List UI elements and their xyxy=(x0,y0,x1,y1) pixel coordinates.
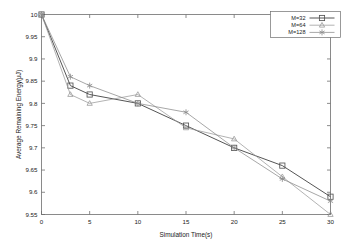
series-line xyxy=(42,15,331,202)
x-tick-label: 30 xyxy=(327,218,334,225)
legend-label-0: M=32 xyxy=(291,15,305,21)
data-point xyxy=(87,83,92,89)
legend-label-2: M=128 xyxy=(288,29,305,35)
y-tick-label: 9.75 xyxy=(25,122,38,129)
data-point xyxy=(68,74,73,80)
data-point xyxy=(232,145,237,151)
y-tick-label: 10 xyxy=(31,11,38,18)
legend-label-1: M=64 xyxy=(291,22,305,28)
series-group xyxy=(39,12,333,217)
chart-canvas: 9.559.69.659.79.759.89.859.99.9510051015… xyxy=(0,0,349,249)
chart-legend: M=32M=64M=128 xyxy=(271,12,341,38)
y-tick-label: 9.9 xyxy=(29,55,38,62)
y-tick-label: 9.55 xyxy=(25,211,38,218)
chart-figure: 9.559.69.659.79.759.89.859.99.9510051015… xyxy=(0,0,349,249)
y-tick-label: 9.6 xyxy=(29,188,38,195)
y-tick-label: 9.85 xyxy=(25,77,38,84)
axis-labels-group: Simulation Time(s)Average Remaining Ener… xyxy=(15,70,212,239)
x-axis-title: Simulation Time(s) xyxy=(160,231,213,239)
series-m-128 xyxy=(39,12,333,205)
x-tick-label: 0 xyxy=(40,218,44,225)
data-point xyxy=(135,92,140,97)
y-tick-label: 9.95 xyxy=(25,33,38,40)
x-tick-label: 20 xyxy=(231,218,238,225)
axes-group: 9.559.69.659.79.759.89.859.99.9510051015… xyxy=(25,11,334,225)
y-tick-label: 9.65 xyxy=(25,166,38,173)
y-tick-label: 9.7 xyxy=(29,144,38,151)
legend-box xyxy=(271,12,341,38)
x-tick-label: 10 xyxy=(134,218,141,225)
y-axis-title: Average Remaining Energy(μJ) xyxy=(15,70,23,159)
x-tick-label: 25 xyxy=(279,218,286,225)
y-tick-label: 9.8 xyxy=(29,100,38,107)
x-tick-label: 5 xyxy=(88,218,92,225)
series-line xyxy=(42,15,331,197)
x-tick-label: 15 xyxy=(183,218,190,225)
series-m-32 xyxy=(39,12,333,199)
